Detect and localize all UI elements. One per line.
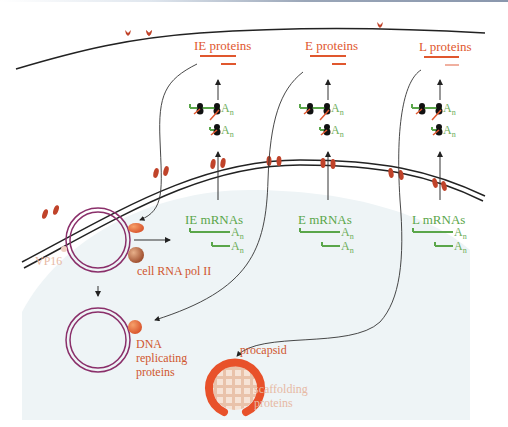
polya-label: An [443, 101, 456, 117]
vp16-dot [61, 246, 67, 252]
scaffolding-label-2: proteins [254, 397, 293, 409]
polya-label: An [443, 123, 456, 139]
protein-bars [200, 56, 459, 65]
polya-label: An [221, 101, 234, 117]
dna-replicating-label-3: proteins [136, 366, 175, 378]
polya-label: An [331, 101, 344, 117]
polya-label: An [221, 123, 234, 139]
polya-label: An [341, 239, 354, 255]
transcription-factor [128, 223, 144, 233]
polya-label: An [331, 123, 344, 139]
l-proteins-label: L proteins [419, 40, 472, 53]
dna-replicating-label-2: replicating [136, 352, 187, 364]
scaffolding-label-1: scaffolding [254, 383, 308, 395]
ie-proteins-label: IE proteins [194, 39, 251, 52]
dna-replication-protein-icon [128, 320, 142, 334]
polya-label: An [231, 239, 244, 255]
procapsid-label: procapsid [240, 344, 287, 356]
dna-replicating-label-1: DNA [136, 338, 162, 350]
rna-pol-ii-icon [128, 247, 144, 263]
rna-pol-label: cell RNA pol II [137, 265, 211, 277]
polya-label: An [454, 239, 467, 255]
e-proteins-label: E proteins [305, 39, 358, 52]
vp16-label: VP16 [35, 255, 62, 267]
